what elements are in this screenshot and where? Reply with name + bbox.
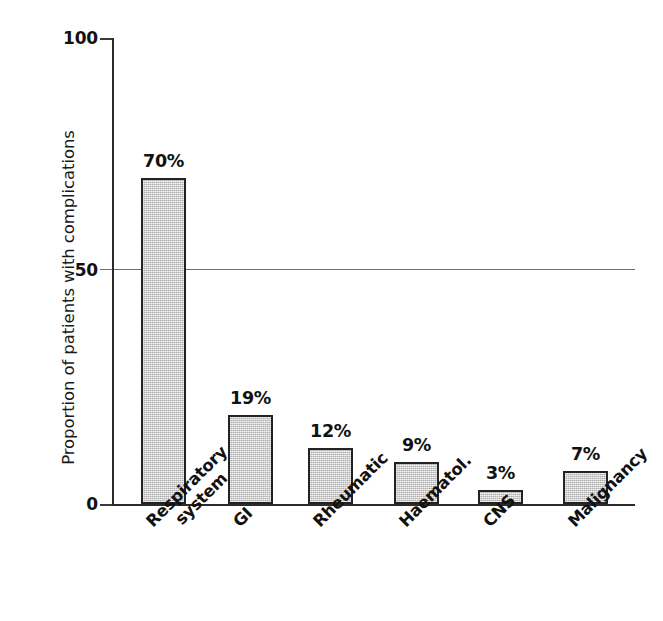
bar-value-label: 19%	[210, 388, 291, 408]
y-axis-title: Proportion of patients with complication…	[59, 88, 78, 508]
bar-gi	[228, 415, 273, 504]
bar-respiratory-system	[141, 178, 186, 504]
bar-value-label: 3%	[460, 463, 541, 483]
y-tick-label-0: 0	[40, 494, 98, 514]
bar-chart: Proportion of patients with complication…	[0, 0, 663, 621]
bar-value-label: 7%	[545, 444, 626, 464]
x-category-label: GI	[230, 504, 257, 531]
y-tick-label-100: 100	[40, 28, 98, 48]
y-axis-line	[112, 38, 114, 506]
bar-value-label: 9%	[376, 435, 457, 455]
y-tick-label-50: 50	[40, 260, 98, 280]
bar-value-label: 70%	[123, 151, 204, 171]
bar-value-label: 12%	[290, 421, 371, 441]
